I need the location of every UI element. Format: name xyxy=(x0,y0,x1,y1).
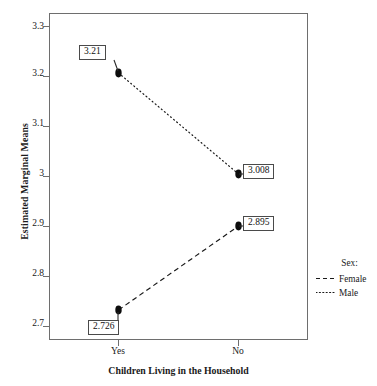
legend-label-female: Female xyxy=(339,274,366,284)
legend-label-male: Male xyxy=(339,288,358,298)
legend-title: Sex: xyxy=(322,258,377,268)
value-label-female-yes: 2.726 xyxy=(88,320,119,335)
legend-item-male: Male xyxy=(316,287,377,298)
legend: Sex: Female Male xyxy=(316,258,377,301)
value-label-female-no: 2.895 xyxy=(243,216,274,231)
interaction-plot-figure: 3.3 3.2 3.1 3 2.9 2.8 2.7 Estimated Marg… xyxy=(0,0,377,386)
y-tick-label: 2.7 xyxy=(32,319,44,329)
value-label-male-yes: 3.21 xyxy=(79,45,106,60)
x-tick-label-yes: Yes xyxy=(88,346,148,356)
y-tick-label: 3.2 xyxy=(32,69,44,79)
legend-item-female: Female xyxy=(316,273,377,284)
y-tick-label: 3.1 xyxy=(32,119,44,129)
x-axis-title: Children Living in the Household xyxy=(49,365,308,376)
value-label-male-no: 3.008 xyxy=(243,164,274,179)
y-axis-title: Estimated Marginal Means xyxy=(19,82,30,282)
y-tick-label: 2.9 xyxy=(32,219,44,229)
legend-swatch-dashed-icon xyxy=(316,274,336,283)
x-tick-label-no: No xyxy=(208,346,268,356)
legend-swatch-dotted-icon xyxy=(316,288,336,297)
y-tick-label: 2.8 xyxy=(32,269,44,279)
y-tick-label: 3 xyxy=(39,169,44,179)
y-tick-label: 3.3 xyxy=(32,22,44,32)
